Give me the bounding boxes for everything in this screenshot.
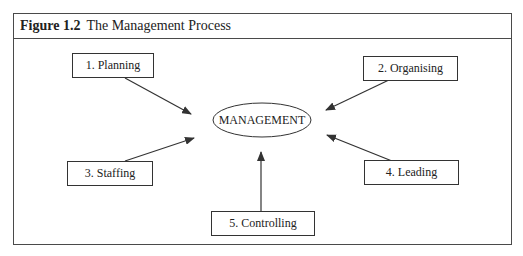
node-planning: 1. Planning bbox=[72, 53, 154, 78]
management-label: MANAGEMENT bbox=[213, 113, 311, 128]
arrow-leading bbox=[327, 135, 392, 161]
arrow-staffing bbox=[125, 138, 194, 161]
node-controlling: 5. Controlling bbox=[211, 211, 315, 236]
arrow-planning bbox=[125, 78, 191, 114]
node-staffing: 3. Staffing bbox=[67, 161, 153, 186]
arrow-organising bbox=[326, 79, 391, 110]
node-leading: 4. Leading bbox=[364, 160, 459, 185]
node-organising: 2. Organising bbox=[363, 56, 458, 81]
